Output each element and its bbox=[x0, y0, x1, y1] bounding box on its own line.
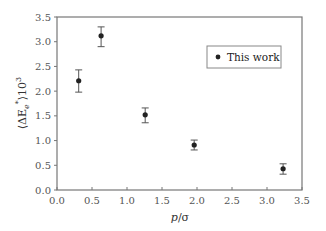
data-point bbox=[75, 70, 82, 92]
legend-marker-icon bbox=[216, 55, 221, 60]
y-tick-label: 1.0 bbox=[35, 135, 51, 146]
y-tick-label: 0.5 bbox=[35, 160, 51, 171]
y-axis-title-exp: 3 bbox=[14, 77, 23, 82]
x-tick-label: 0.5 bbox=[84, 195, 100, 206]
x-tick-label: 1.0 bbox=[119, 195, 135, 206]
data-point bbox=[191, 140, 198, 150]
y-axis-ticks: 0.00.51.01.52.02.53.03.5 bbox=[35, 12, 57, 196]
y-axis-title-open: ⟨ΔE bbox=[16, 109, 29, 129]
legend: This work bbox=[207, 46, 281, 68]
y-axis-title-sub: e bbox=[22, 104, 31, 109]
marker-circle-icon bbox=[99, 33, 104, 38]
x-tick-label: 3.5 bbox=[294, 195, 310, 206]
y-tick-label: 0.0 bbox=[35, 185, 51, 196]
marker-circle-icon bbox=[143, 112, 148, 117]
axes-box bbox=[57, 17, 302, 190]
data-point bbox=[98, 27, 105, 47]
y-axis-title-close: ⟩10 bbox=[16, 82, 29, 100]
marker-circle-icon bbox=[281, 166, 286, 171]
x-axis-title: p/σ bbox=[171, 211, 190, 224]
y-axis-title: ⟨ΔEe*⟩103 bbox=[14, 77, 31, 129]
x-axis-title-italic: p bbox=[171, 211, 178, 224]
x-tick-label: 0.0 bbox=[49, 195, 65, 206]
x-axis-title-rest: /σ bbox=[178, 211, 190, 224]
chart: 0.00.51.01.52.02.53.03.5 0.00.51.01.52.0… bbox=[0, 0, 326, 231]
x-tick-label: 1.5 bbox=[154, 195, 170, 206]
y-tick-label: 1.5 bbox=[35, 110, 51, 121]
x-tick-label: 3.0 bbox=[259, 195, 275, 206]
data-point bbox=[280, 164, 287, 174]
y-tick-label: 2.0 bbox=[35, 86, 51, 97]
marker-circle-icon bbox=[76, 78, 81, 83]
marker-circle-icon bbox=[192, 142, 197, 147]
x-tick-label: 2.0 bbox=[189, 195, 205, 206]
y-tick-label: 2.5 bbox=[35, 61, 51, 72]
y-tick-label: 3.5 bbox=[35, 12, 51, 23]
y-tick-label: 3.0 bbox=[35, 36, 51, 47]
x-tick-label: 2.5 bbox=[224, 195, 240, 206]
data-point bbox=[142, 108, 149, 123]
legend-label: This work bbox=[227, 51, 280, 63]
plot-frame bbox=[57, 17, 302, 190]
